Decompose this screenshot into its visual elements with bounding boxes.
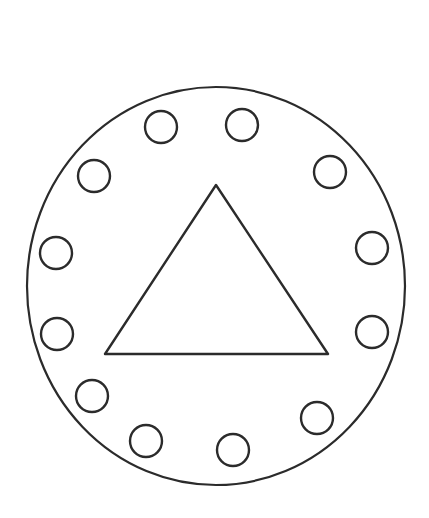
artwork-svg [0, 0, 429, 518]
drawing-canvas [0, 0, 429, 518]
background-rect [0, 0, 429, 518]
